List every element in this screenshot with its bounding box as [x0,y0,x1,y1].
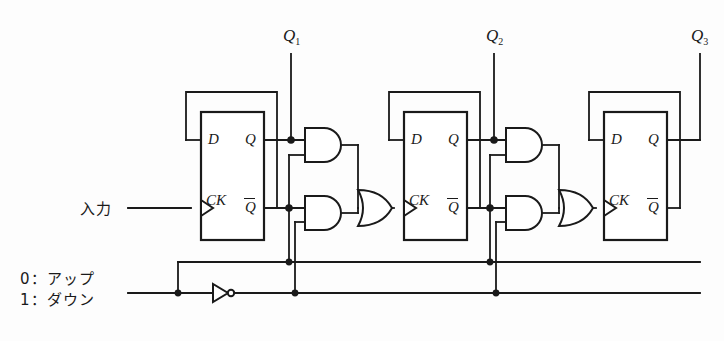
mode-down-label: 1：ダウン [20,288,95,309]
ff3-d-label: D [611,131,622,148]
ff1-ck-label: CK [206,192,226,209]
ff3-qbar-label: Q [648,199,659,216]
q2-subscript: 2 [498,36,503,47]
mode-up-label: 0：アップ [20,267,95,288]
q3-letter: Q [691,26,703,45]
q2-output-label: Q2 [486,26,503,47]
ff1-d-label: D [208,131,219,148]
up-bus [178,262,700,293]
junction-dot [175,290,182,297]
input-label: 入力 [80,197,112,218]
or-gate-1 [358,145,394,226]
q1-letter: Q [283,26,295,45]
q1-output-label: Q1 [283,26,300,47]
q3-output-label: Q3 [691,26,708,47]
ff2-d-label: D [411,131,422,148]
ff1-qbar-label: Q [245,199,256,216]
ff2-qbar-label: Q [448,199,459,216]
and-gate-1b [295,196,358,293]
q1-subscript: 1 [295,36,300,47]
circuit-diagram: .w{stroke:#1a1a1a;stroke-width:1.8;fill:… [0,0,724,341]
or-gate-2 [559,145,596,226]
q1-tap [287,54,295,144]
ff3-ck-label: CK [609,192,629,209]
q2-tap [490,54,498,144]
not-gate-direction [213,284,234,302]
ff2-ck-label: CK [409,192,429,209]
ff1-q-label: Q [245,131,256,148]
ff2-q-label: Q [448,131,459,148]
and-gate-2b [496,196,559,293]
q2-letter: Q [486,26,498,45]
q3-subscript: 3 [703,36,708,47]
ff3-q-label: Q [648,131,659,148]
circuit-svg: .w{stroke:#1a1a1a;stroke-width:1.8;fill:… [0,0,724,341]
